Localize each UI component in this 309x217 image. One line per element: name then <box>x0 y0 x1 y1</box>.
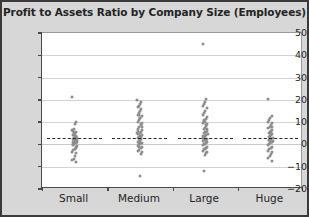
mean-line-large <box>178 138 233 139</box>
y-axis <box>2 32 41 188</box>
x-tick-label-small: Small <box>59 192 88 204</box>
mean-lines-layer <box>42 33 301 187</box>
y-tick-label-40: 40 <box>271 49 307 60</box>
y-tick-label-10: 10 <box>271 116 307 127</box>
x-tick-label-medium: Medium <box>118 192 160 204</box>
x-tick-mark-0 <box>42 187 43 191</box>
y-tick-mark-20 <box>38 99 42 100</box>
chart-figure: Profit to Assets Ratio by Company Size (… <box>0 0 309 217</box>
x-tick-mark-3 <box>238 187 239 191</box>
y-tick-mark-10 <box>38 121 42 122</box>
y-tick-label-20: 20 <box>271 93 307 104</box>
x-tick-mark-1 <box>107 187 108 191</box>
y-tick-mark-40 <box>38 55 42 56</box>
mean-line-small <box>47 138 102 139</box>
y-tick-label-0: 0 <box>271 138 307 149</box>
x-tick-label-huge: Huge <box>256 192 284 204</box>
mean-line-medium <box>112 138 167 139</box>
y-tick-mark--10 <box>38 166 42 167</box>
x-tick-label-large: Large <box>189 192 219 204</box>
y-tick-mark-50 <box>38 32 42 33</box>
y-tick-label-30: 30 <box>271 71 307 82</box>
y-tick-label-50: 50 <box>271 27 307 38</box>
chart-title: Profit to Assets Ratio by Company Size (… <box>2 6 307 18</box>
y-tick-label--10: −10 <box>271 160 307 171</box>
y-tick-mark-0 <box>38 144 42 145</box>
x-tick-mark-2 <box>173 187 174 191</box>
plot-area <box>41 32 302 188</box>
y-tick-mark-30 <box>38 77 42 78</box>
